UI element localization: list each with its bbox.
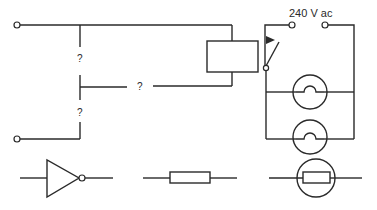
lamp-2 bbox=[266, 120, 354, 154]
switch-pivot bbox=[263, 65, 268, 70]
not-gate-bubble bbox=[79, 175, 85, 181]
output-circuit: 240 V ac bbox=[263, 7, 354, 154]
ldr-symbol bbox=[269, 159, 362, 197]
circuit-svg: ? ? ? 240 V ac bbox=[0, 0, 377, 210]
unknown-mark-2: ? bbox=[137, 81, 143, 92]
lamp-1-filament bbox=[296, 86, 324, 92]
right-rail bbox=[328, 25, 354, 139]
lamp-2-bulb bbox=[293, 120, 327, 154]
unknown-mark-1: ? bbox=[77, 53, 83, 64]
relay-coil bbox=[207, 25, 258, 86]
supply-label: 240 V ac bbox=[289, 7, 333, 19]
not-gate-symbol bbox=[20, 160, 113, 197]
relay-box bbox=[207, 41, 258, 72]
lamp-1 bbox=[266, 75, 354, 109]
ldr-body bbox=[303, 172, 330, 183]
input-terminal-bottom bbox=[14, 136, 20, 142]
unknown-mark-3: ? bbox=[77, 107, 83, 118]
not-gate-triangle bbox=[47, 160, 79, 197]
circuit-diagram: ? ? ? 240 V ac bbox=[0, 0, 377, 210]
switch-arrow-icon bbox=[266, 36, 275, 44]
input-terminal-top bbox=[14, 22, 20, 28]
supply-terminal-right bbox=[322, 22, 328, 28]
lamp-2-filament bbox=[296, 133, 324, 139]
resistor-symbol bbox=[143, 172, 237, 183]
switch-blade bbox=[266, 42, 279, 66]
input-circuit: ? ? ? bbox=[14, 22, 232, 142]
supply-terminal-left bbox=[289, 22, 295, 28]
resistor-body bbox=[170, 172, 210, 183]
